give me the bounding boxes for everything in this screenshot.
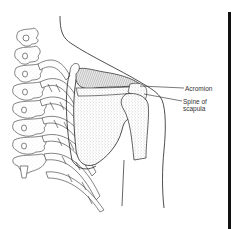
spine-leader [144,94,182,101]
arm-inner-line [122,160,124,206]
label-spine-line2: scapula [183,105,207,112]
label-acromion: Acromion [185,85,212,92]
page-edge-border [228,12,231,229]
acromion-leader [140,86,184,88]
shoulder-anatomy-illustration [0,0,231,229]
label-spine-of-scapula: Spine of scapula [183,98,207,112]
humerus [121,93,148,160]
label-spine-line1: Spine of [183,98,207,105]
